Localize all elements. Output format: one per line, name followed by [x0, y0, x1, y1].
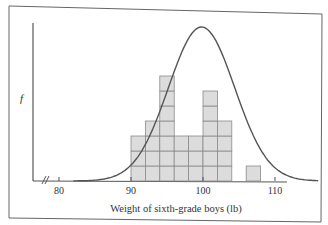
histogram-cell: [160, 106, 174, 121]
histogram-cell: [160, 136, 174, 151]
histogram-chart: f 8090100110 Weight of sixth-grade boys …: [0, 0, 328, 225]
histogram-cell: [217, 151, 231, 166]
histogram-cell: [203, 151, 217, 166]
histogram-cell: [174, 136, 188, 151]
histogram-cell: [246, 166, 260, 181]
y-axis-label: f: [20, 92, 25, 104]
x-tick-label: 110: [268, 185, 283, 196]
histogram-cell: [145, 136, 159, 151]
x-axis-label: Weight of sixth-grade boys (lb): [110, 203, 242, 215]
histogram-cell: [131, 166, 145, 181]
axis-break-icon: [42, 176, 49, 184]
histogram-cell: [189, 151, 203, 166]
histogram-cell: [145, 151, 159, 166]
x-tick-label: 100: [196, 185, 211, 196]
histogram-cell: [160, 121, 174, 136]
histogram-cell: [160, 151, 174, 166]
histogram-cell: [203, 166, 217, 181]
histogram-cell: [189, 166, 203, 181]
x-tick-label: 80: [54, 185, 64, 196]
histogram-cell: [203, 121, 217, 136]
histogram-cell: [145, 166, 159, 181]
histogram-bars: [131, 76, 261, 181]
histogram-cell: [203, 91, 217, 106]
histogram-cell: [203, 136, 217, 151]
histogram-cell: [217, 166, 231, 181]
x-tick-label: 90: [126, 185, 136, 196]
histogram-cell: [174, 151, 188, 166]
histogram-cell: [217, 136, 231, 151]
histogram-cell: [189, 136, 203, 151]
histogram-cell: [174, 166, 188, 181]
histogram-cell: [160, 166, 174, 181]
histogram-cell: [203, 106, 217, 121]
histogram-cell: [217, 121, 231, 136]
